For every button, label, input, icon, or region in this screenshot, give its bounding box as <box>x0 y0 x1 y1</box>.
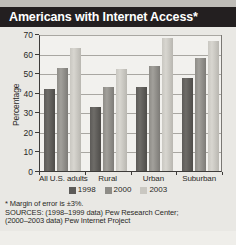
legend-item-2000: 2000 <box>105 186 132 194</box>
legend-swatch-1998 <box>69 187 76 194</box>
legend-swatch-2000 <box>105 187 112 194</box>
chart-notes: * Margin of error is ±3%. SOURCES: (1998… <box>5 200 233 226</box>
y-tick-label: 10 <box>15 148 33 156</box>
y-tick-label: 50 <box>15 70 33 78</box>
bar-2003-all-u-s-adults <box>70 48 81 171</box>
bar-2000-suburban <box>195 58 206 172</box>
legend-swatch-2003 <box>140 187 147 194</box>
bar-2000-all-u-s-adults <box>57 68 68 171</box>
y-tick-mark <box>35 54 39 55</box>
x-tick-mark <box>39 172 40 175</box>
y-tick-label: 60 <box>15 51 33 59</box>
y-tick-mark <box>35 93 39 94</box>
chart-title: Americans with Internet Access* <box>9 8 229 26</box>
note-source-line-2: (2000–2003 data) Pew Internet Project <box>5 217 233 226</box>
y-axis-title: Percentage <box>11 83 21 125</box>
bar-2000-urban <box>149 66 160 171</box>
y-tick-mark <box>35 73 39 74</box>
y-tick-label: 20 <box>15 129 33 137</box>
y-tick-mark <box>35 34 39 35</box>
y-tick-mark <box>35 112 39 113</box>
bar-1998-all-u-s-adults <box>44 89 55 171</box>
bar-2003-suburban <box>208 41 219 171</box>
legend-item-1998: 1998 <box>69 186 96 194</box>
legend-item-2003: 2003 <box>140 186 167 194</box>
y-tick-mark <box>35 132 39 133</box>
gridline <box>40 35 221 36</box>
chart-figure: Americans with Internet Access* 01020304… <box>0 0 236 245</box>
bar-1998-rural <box>90 107 101 171</box>
top-strip <box>0 0 236 7</box>
x-axis-label-all-u-s-adults: All U.S. adults <box>39 174 85 183</box>
y-tick-mark <box>35 151 39 152</box>
bar-1998-urban <box>136 87 147 171</box>
legend-label-2003: 2003 <box>149 186 167 194</box>
gridline <box>40 55 221 56</box>
y-tick-label: 0 <box>15 168 33 176</box>
bar-2003-urban <box>162 38 173 171</box>
legend-label-2000: 2000 <box>114 186 132 194</box>
plot-area <box>39 35 222 172</box>
chart-legend: 199820002003 <box>0 186 236 194</box>
x-axis-label-urban: Urban <box>131 174 177 183</box>
bottom-fill <box>0 231 236 245</box>
x-axis-label-rural: Rural <box>85 174 131 183</box>
legend-label-1998: 1998 <box>78 186 96 194</box>
y-tick-label: 70 <box>15 31 33 39</box>
x-tick-mark <box>222 172 223 175</box>
bar-2003-rural <box>116 69 127 171</box>
x-axis-label-suburban: Suburban <box>176 174 222 183</box>
bar-1998-suburban <box>182 78 193 171</box>
bar-2000-rural <box>103 87 114 171</box>
